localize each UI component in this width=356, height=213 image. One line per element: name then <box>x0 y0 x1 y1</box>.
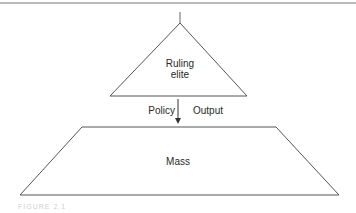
ruling-elite-label: Ruling elite <box>150 58 210 80</box>
mass-label: Mass <box>150 156 206 167</box>
arrow-head-icon <box>175 118 181 124</box>
policy-label: Policy <box>125 105 175 116</box>
diagram-canvas <box>0 0 356 213</box>
ruling-elite-label-line1: Ruling <box>150 58 210 69</box>
ruling-elite-label-line2: elite <box>150 69 210 80</box>
output-label: Output <box>193 105 243 116</box>
figure-caption: FIGURE 2.1 <box>18 203 66 210</box>
